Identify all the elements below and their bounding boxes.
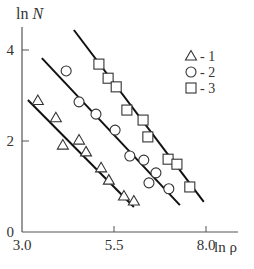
data-points bbox=[32, 59, 194, 205]
square-marker bbox=[138, 115, 148, 125]
circle-marker bbox=[91, 109, 101, 119]
square-marker bbox=[143, 132, 153, 142]
square-marker bbox=[111, 82, 121, 92]
chart: 3.05.58.0024 - 1- 2- 3 ln N ln ρ bbox=[0, 0, 254, 269]
circle-marker bbox=[61, 66, 71, 76]
triangle-marker bbox=[74, 135, 85, 145]
triangle-marker bbox=[81, 146, 92, 156]
x-tick-label: 8.0 bbox=[197, 237, 216, 253]
y-tick-label: 2 bbox=[7, 133, 15, 149]
legend-square-icon bbox=[186, 83, 196, 93]
legend-label: - 1 bbox=[200, 49, 215, 64]
triangle-marker bbox=[32, 95, 43, 105]
circle-marker bbox=[151, 168, 161, 178]
square-marker bbox=[94, 59, 104, 69]
legend-label: - 3 bbox=[200, 81, 215, 96]
triangle-marker bbox=[103, 175, 114, 185]
y-tick-label: 4 bbox=[7, 42, 15, 58]
square-marker bbox=[122, 105, 132, 115]
x-tick-label: 5.5 bbox=[105, 237, 124, 253]
square-marker bbox=[185, 182, 195, 192]
x-axis-label: ln ρ bbox=[214, 239, 237, 255]
circle-marker bbox=[164, 184, 174, 194]
circle-marker bbox=[139, 155, 149, 165]
legend-triangle-icon bbox=[186, 51, 197, 61]
triangle-marker bbox=[96, 162, 107, 172]
fit-line-series-1 bbox=[28, 100, 134, 207]
square-marker bbox=[172, 159, 182, 169]
circle-marker bbox=[110, 125, 120, 135]
legend: - 1- 2- 3 bbox=[186, 49, 216, 96]
triangle-marker bbox=[57, 140, 68, 150]
circle-marker bbox=[125, 151, 135, 161]
x-tick-label: 3.0 bbox=[13, 237, 32, 253]
circle-marker bbox=[74, 97, 84, 107]
legend-label: - 2 bbox=[200, 65, 215, 80]
triangle-marker bbox=[50, 112, 61, 122]
y-axis-label: ln N bbox=[16, 5, 44, 22]
y-tick-label: 0 bbox=[7, 224, 15, 240]
legend-circle-icon bbox=[186, 67, 196, 77]
circle-marker bbox=[144, 178, 154, 188]
